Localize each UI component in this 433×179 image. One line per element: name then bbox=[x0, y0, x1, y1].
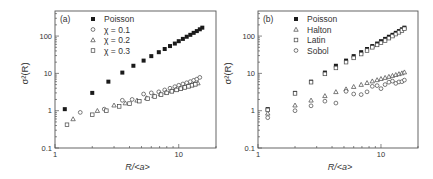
series-latin bbox=[266, 27, 406, 112]
data-point bbox=[344, 89, 348, 93]
y-axis-label: σ²(R) bbox=[222, 62, 233, 84]
data-point bbox=[359, 82, 363, 86]
data-point bbox=[177, 39, 181, 43]
data-point bbox=[379, 87, 383, 91]
data-point bbox=[175, 88, 179, 92]
x-tick-label: 10 bbox=[377, 150, 385, 159]
y-tick-label: 1 bbox=[251, 106, 255, 115]
legend-marker-icon bbox=[91, 49, 95, 53]
data-point bbox=[78, 110, 82, 114]
data-point bbox=[90, 113, 94, 117]
x-axis-label: R/<a> bbox=[125, 162, 150, 172]
data-point bbox=[403, 27, 407, 31]
panel-a: 1100.1110100R/<a>σ²(R)(a)Poissonχ = 0.1χ… bbox=[19, 11, 216, 172]
data-point bbox=[90, 91, 94, 95]
legend-marker-icon bbox=[294, 38, 298, 42]
data-point bbox=[365, 49, 369, 53]
data-point bbox=[370, 79, 374, 83]
x-tick-label: 1 bbox=[53, 150, 57, 159]
legend-label: χ = 0.3 bbox=[104, 46, 130, 56]
data-point bbox=[359, 93, 363, 97]
data-point bbox=[153, 95, 157, 99]
legend-marker-icon bbox=[294, 49, 298, 53]
data-point bbox=[402, 78, 406, 82]
data-point bbox=[149, 91, 153, 95]
data-point bbox=[179, 87, 183, 91]
data-point bbox=[187, 85, 191, 89]
legend-marker-icon bbox=[294, 27, 298, 31]
data-point bbox=[138, 99, 142, 103]
legend: Poissonχ = 0.1χ = 0.2χ = 0.3 bbox=[91, 14, 135, 56]
legend-label: Poisson bbox=[104, 14, 135, 24]
x-axis-label: R/<a> bbox=[328, 162, 353, 172]
data-point bbox=[375, 43, 379, 47]
data-point bbox=[95, 108, 99, 112]
data-point bbox=[352, 92, 356, 96]
data-point bbox=[334, 66, 338, 70]
data-point bbox=[370, 84, 374, 88]
legend-label: Poisson bbox=[307, 14, 338, 24]
series-halton bbox=[266, 70, 407, 115]
series-sobol bbox=[266, 78, 406, 119]
data-point bbox=[334, 101, 338, 105]
data-point bbox=[170, 90, 174, 94]
data-point bbox=[309, 80, 313, 84]
data-point bbox=[193, 82, 197, 86]
y-tick-label: 0.1 bbox=[42, 144, 52, 153]
data-point bbox=[173, 42, 177, 46]
legend-label: χ = 0.2 bbox=[104, 35, 130, 45]
series--0-1 bbox=[78, 76, 201, 115]
data-point bbox=[379, 77, 383, 81]
data-point bbox=[266, 116, 270, 120]
legend: PoissonHaltonLatinSobol bbox=[294, 14, 338, 56]
data-point bbox=[120, 71, 124, 75]
data-point bbox=[198, 76, 202, 80]
data-point bbox=[370, 46, 374, 50]
data-point bbox=[365, 90, 369, 94]
y-tick-label: 1 bbox=[48, 106, 52, 115]
data-point bbox=[112, 103, 116, 107]
data-point bbox=[165, 91, 169, 95]
data-point bbox=[351, 84, 355, 88]
data-point bbox=[71, 117, 75, 121]
y-tick-label: 10 bbox=[247, 69, 255, 78]
data-point bbox=[359, 52, 363, 56]
y-tick-label: 0.1 bbox=[245, 144, 255, 153]
data-point bbox=[323, 72, 327, 76]
data-point bbox=[293, 103, 297, 107]
data-point bbox=[352, 56, 356, 60]
series--0-3 bbox=[65, 82, 197, 126]
data-point bbox=[131, 64, 135, 68]
legend-marker-icon bbox=[294, 17, 298, 21]
data-point bbox=[375, 84, 379, 88]
data-point bbox=[323, 94, 327, 98]
data-point bbox=[365, 81, 369, 85]
data-point bbox=[149, 54, 153, 58]
data-point bbox=[387, 36, 391, 40]
data-point bbox=[383, 75, 387, 79]
data-point bbox=[344, 60, 348, 64]
legend-marker-icon bbox=[91, 38, 95, 42]
data-point bbox=[323, 99, 327, 103]
legend-label: Halton bbox=[307, 25, 332, 35]
y-tick-label: 100 bbox=[242, 32, 255, 41]
data-point bbox=[105, 109, 109, 113]
data-point bbox=[106, 80, 110, 84]
panel-label: (b) bbox=[263, 14, 274, 24]
data-point bbox=[379, 41, 383, 45]
data-point bbox=[63, 107, 67, 111]
data-point bbox=[65, 123, 69, 127]
data-point bbox=[117, 105, 121, 109]
panel-b: 1100.1110100R/<a>σ²(R)(b)PoissonHaltonLa… bbox=[222, 11, 418, 172]
data-point bbox=[293, 109, 297, 113]
y-tick-label: 100 bbox=[39, 32, 52, 41]
chart-canvas: 1100.1110100R/<a>σ²(R)(a)Poissonχ = 0.1χ… bbox=[0, 0, 433, 179]
data-point bbox=[383, 39, 387, 43]
data-point bbox=[128, 102, 132, 106]
data-point bbox=[168, 44, 172, 48]
data-point bbox=[334, 90, 338, 94]
data-point bbox=[309, 98, 313, 102]
data-point bbox=[375, 78, 379, 82]
data-point bbox=[383, 83, 387, 87]
data-point bbox=[293, 92, 297, 96]
